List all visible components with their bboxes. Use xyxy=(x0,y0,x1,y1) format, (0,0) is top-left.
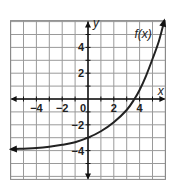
x-tick-label: 4 xyxy=(137,102,144,114)
x-tick-label: 0 xyxy=(80,102,86,114)
x-axis-label: x xyxy=(157,84,165,98)
function-label: f(x) xyxy=(134,27,151,41)
y-tick-label: −2 xyxy=(71,119,84,131)
y-axis-label: y xyxy=(92,16,100,30)
x-tick-label: −4 xyxy=(30,102,43,114)
y-tick-label: 4 xyxy=(78,41,85,53)
function-graph: −4−202442−2−4 x y f(x) xyxy=(0,0,176,189)
x-tick-label: −2 xyxy=(56,102,69,114)
x-tick-label: 2 xyxy=(111,102,117,114)
axes xyxy=(11,22,166,180)
y-tick-label: 2 xyxy=(78,67,84,79)
y-tick-label: −4 xyxy=(71,145,84,157)
